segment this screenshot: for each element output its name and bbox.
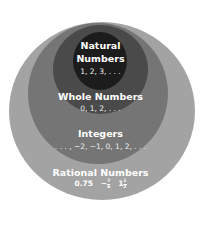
integers-label: Integers	[0, 128, 201, 139]
whole-label: Whole Numbers	[0, 91, 201, 102]
natural-label-line2: Numbers	[0, 53, 201, 64]
natural-label-line1: Natural	[0, 40, 201, 51]
fraction-7-6: 76	[107, 179, 110, 189]
fraction-1-2: 12	[123, 179, 126, 189]
natural-examples: 1, 2, 3, . . .	[0, 67, 201, 76]
rational-examples: 0.75 −76 112	[0, 179, 201, 189]
integers-examples: . . . , −2, −1, 0, 1, 2, . . .	[0, 142, 201, 151]
rational-label: Rational Numbers	[0, 167, 201, 178]
whole-examples: 0, 1, 2, . . .	[0, 104, 201, 113]
